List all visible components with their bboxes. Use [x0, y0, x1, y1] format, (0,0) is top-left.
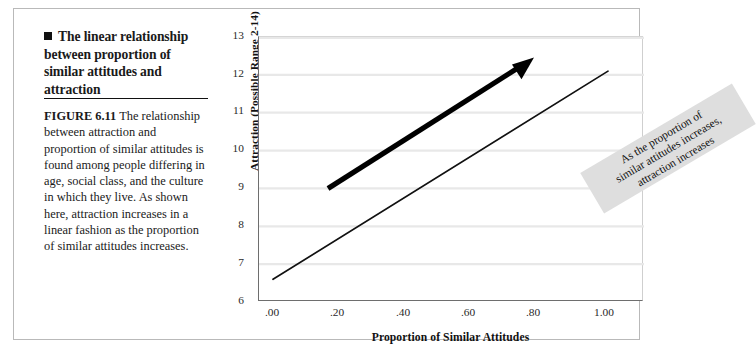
figure-headline: The linear relationship between proporti… [44, 28, 210, 98]
horizontal-gridlines [259, 38, 644, 264]
x-tick-label-080: .80 [511, 306, 555, 318]
x-tick-label-020: .20 [315, 306, 359, 318]
y-tick-label-6: 6 [216, 294, 244, 306]
y-tick-label-9: 9 [216, 180, 244, 192]
trend-arrow-icon [328, 58, 534, 189]
figure-caption: FIGURE 6.11 The relationship between att… [44, 108, 210, 255]
y-tick-label-11: 11 [216, 104, 244, 116]
x-tick-label-060: .60 [446, 306, 490, 318]
y-tick-label-8: 8 [216, 218, 244, 230]
x-tick-label-040: .40 [381, 306, 425, 318]
plot-area: As the proportion of similar attitudes i… [258, 36, 643, 301]
figure-number-label: FIGURE 6.11 [44, 109, 116, 123]
trend-line [273, 71, 608, 279]
y-tick-label-10: 10 [216, 142, 244, 154]
figure-caption-body: The relationship between attraction and … [44, 109, 205, 253]
x-tick-label-000: .00 [250, 306, 294, 318]
x-tick-label-100: 1.00 [582, 306, 626, 318]
figure-text-column: The linear relationship between proporti… [44, 28, 210, 98]
filled-square-icon [44, 32, 52, 40]
figure-headline-text: The linear relationship between proporti… [44, 29, 188, 97]
y-tick-label-13: 13 [216, 29, 244, 41]
y-tick-label-12: 12 [216, 67, 244, 79]
x-axis-title: Proportion of Similar Attitudes [258, 331, 643, 344]
chart-region: Attraction (Possible Range 2-14) 13 12 1… [210, 23, 650, 343]
figure-divider-rule [44, 98, 208, 99]
y-tick-label-7: 7 [216, 256, 244, 268]
figure-outer-border: The linear relationship between proporti… [13, 8, 640, 340]
